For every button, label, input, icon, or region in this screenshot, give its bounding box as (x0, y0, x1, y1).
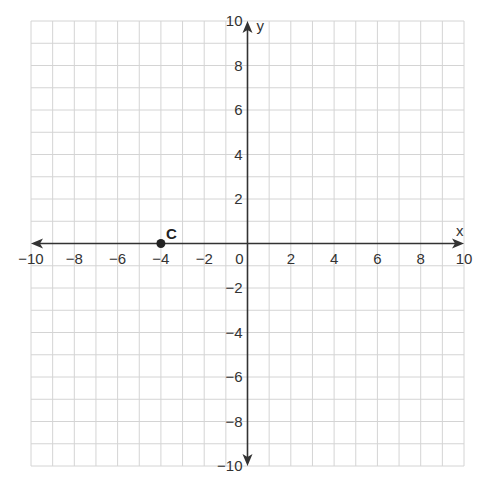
y-tick-label: 6 (234, 101, 242, 118)
x-tick-label: −6 (109, 250, 126, 267)
x-tick-label: 6 (373, 250, 381, 267)
point-marker (156, 239, 165, 248)
x-axis-label: x (456, 222, 464, 239)
data-points: C (156, 225, 177, 249)
x-tick-label: −8 (66, 250, 83, 267)
y-tick-label: 4 (234, 146, 242, 163)
x-tick-label: 0 (235, 250, 243, 267)
x-tick-label: 2 (287, 250, 295, 267)
y-tick-label: 8 (234, 57, 242, 74)
x-tick-label: −2 (196, 250, 213, 267)
y-tick-label: 10 (226, 12, 243, 29)
x-tick-label: −4 (152, 250, 169, 267)
y-tick-label: 2 (234, 190, 242, 207)
x-tick-label: 10 (456, 250, 473, 267)
y-axis-label: y (257, 17, 265, 34)
y-tick-label: −4 (225, 324, 242, 341)
y-tick-label: −6 (225, 368, 242, 385)
coordinate-plane: xy −10−8−6−4−20246810−10−8−6−4−2246810 C (0, 0, 484, 483)
x-tick-label: −10 (18, 250, 43, 267)
point-label: C (166, 225, 177, 242)
y-tick-label: −10 (217, 457, 242, 474)
y-tick-label: −2 (225, 279, 242, 296)
x-tick-label: 8 (417, 250, 425, 267)
y-tick-label: −8 (225, 413, 242, 430)
x-tick-label: 4 (330, 250, 338, 267)
